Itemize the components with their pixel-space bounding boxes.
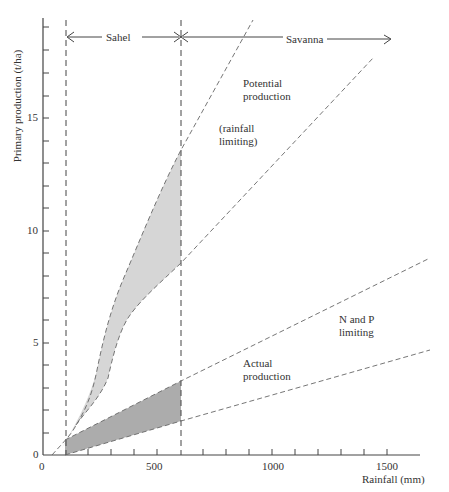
savanna-label: Savanna — [286, 33, 323, 46]
potential-label-line1: Potential — [243, 77, 282, 90]
y-tick-10: 10 — [27, 224, 38, 236]
rainfall-limiting-line1: (rainfall — [219, 122, 254, 135]
np-limiting-line1: N and P — [339, 313, 374, 326]
actual-label-line2: production — [243, 370, 291, 383]
y-axis-label: Primary production (t/ha) — [11, 41, 23, 171]
x-axis-label: Rainfall (mm) — [362, 473, 425, 486]
rainfall-limiting-line2: limiting) — [219, 135, 258, 148]
x-tick-0: 0 — [39, 460, 45, 472]
sahel-label: Sahel — [106, 31, 130, 44]
actual-label-line1: Actual — [243, 357, 272, 370]
y-tick-5: 5 — [33, 336, 39, 348]
actual-band — [65, 381, 181, 455]
np-limiting-line2: limiting — [339, 326, 374, 339]
potential-label-line2: production — [243, 90, 291, 103]
chart-canvas — [0, 0, 449, 492]
y-tick-15: 15 — [27, 111, 38, 123]
x-ticks — [88, 449, 387, 455]
x-tick-500: 500 — [146, 460, 163, 472]
y-ticks — [43, 27, 49, 433]
x-tick-1500: 1500 — [376, 460, 398, 472]
y-tick-0: 0 — [33, 448, 39, 460]
x-tick-1000: 1000 — [262, 460, 284, 472]
potential-lower-line — [76, 57, 374, 425]
